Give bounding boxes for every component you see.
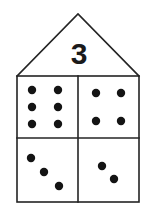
dot — [28, 103, 36, 111]
dot — [117, 89, 125, 97]
dot — [27, 154, 35, 162]
quadrant-bottom-left-dots — [27, 154, 63, 190]
dot — [54, 86, 62, 94]
roof-number-label: 3 — [71, 37, 88, 70]
dot — [54, 103, 62, 111]
dot — [55, 182, 63, 190]
dot — [28, 120, 36, 128]
dot — [54, 120, 62, 128]
house-dot-diagram: 3 — [0, 0, 145, 211]
quadrant-bottom-right-dots — [98, 162, 118, 183]
dot — [110, 175, 118, 183]
quadrant-top-right-dots — [92, 89, 125, 125]
dot — [40, 168, 48, 176]
dot — [98, 162, 106, 170]
house-diagram-canvas: 3 — [0, 0, 145, 211]
dot — [117, 117, 125, 125]
dot — [92, 89, 100, 97]
quadrant-top-left-dots — [28, 86, 62, 128]
dot — [92, 117, 100, 125]
dot — [28, 86, 36, 94]
